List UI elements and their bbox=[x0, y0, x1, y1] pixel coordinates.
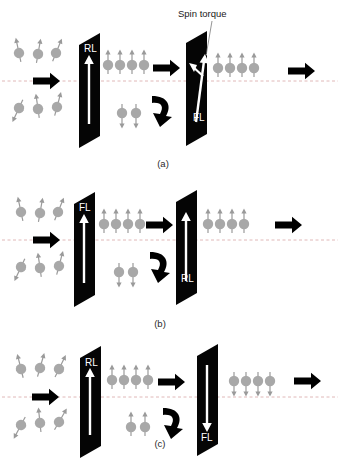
current-arrow-in bbox=[32, 389, 59, 405]
layer-left-rl: RL bbox=[80, 346, 101, 458]
layer-right-fl: FL bbox=[197, 344, 218, 456]
outgoing-spins-down bbox=[229, 372, 275, 397]
current-arrow-mid bbox=[153, 60, 180, 76]
transmitted-spins-up bbox=[107, 365, 153, 390]
layer-right-label: RL bbox=[181, 273, 194, 284]
layer-right-label: FL bbox=[201, 432, 213, 443]
layer-left-label: RL bbox=[84, 43, 97, 54]
panel-caption: (b) bbox=[154, 318, 166, 329]
reflection-curved-arrow bbox=[152, 96, 172, 127]
spin-transfer-torque-figure: RL bbox=[0, 0, 340, 462]
reflection-curved-arrow bbox=[150, 252, 170, 283]
current-arrow-out bbox=[275, 217, 302, 233]
layer-right-rl: RL bbox=[176, 190, 197, 305]
reflected-spins-down bbox=[114, 263, 138, 288]
reflection-curved-arrow bbox=[163, 408, 183, 439]
spin-torque-label: Spin torque bbox=[178, 8, 227, 19]
current-arrow-mid bbox=[146, 217, 173, 233]
current-arrow-in bbox=[33, 232, 60, 248]
layer-right-label: FL bbox=[193, 112, 205, 123]
reflected-spins-up bbox=[126, 412, 150, 437]
outgoing-spins-up bbox=[213, 53, 259, 78]
current-arrow-out bbox=[294, 373, 321, 389]
layer-left-rl: RL bbox=[79, 33, 100, 148]
layer-right-fl: FL bbox=[186, 31, 212, 146]
current-arrow-mid bbox=[158, 374, 185, 390]
panel-c: RL FL (c) bbox=[2, 344, 338, 458]
layer-left-label: FL bbox=[79, 202, 91, 213]
panel-caption: (a) bbox=[157, 158, 169, 169]
reflected-spins-down bbox=[117, 104, 141, 129]
layer-left-label: RL bbox=[85, 357, 98, 368]
current-arrow-in bbox=[33, 73, 60, 89]
panel-caption: (c) bbox=[154, 438, 165, 449]
layer-left-fl: FL bbox=[74, 192, 95, 307]
panel-a: RL bbox=[2, 8, 338, 169]
current-arrow-out bbox=[288, 63, 315, 79]
transmitted-spins-up bbox=[103, 50, 149, 75]
outgoing-spins-up bbox=[203, 209, 249, 234]
transmitted-spins-up bbox=[99, 209, 145, 234]
panel-b: FL RL (b) bbox=[2, 190, 338, 329]
